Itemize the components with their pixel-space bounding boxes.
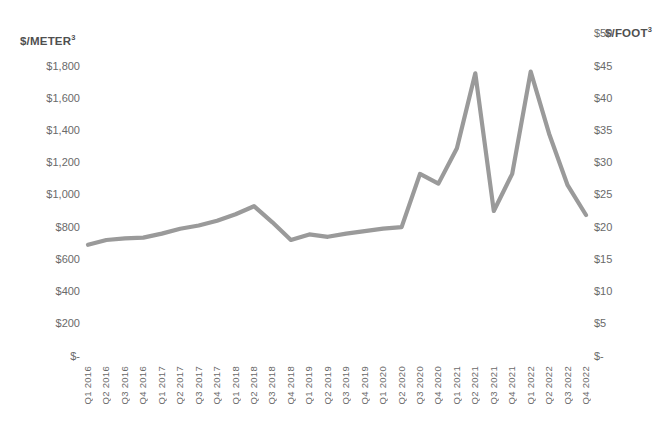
right-tick-label: $20 <box>594 222 664 233</box>
left-tick-label: $600 <box>10 254 80 265</box>
x-tick-label: Q1 2017 <box>156 366 167 405</box>
left-tick-label: $1,200 <box>10 157 80 168</box>
x-tick-label: Q3 2021 <box>488 366 499 405</box>
right-tick-label: $30 <box>594 157 664 168</box>
right-tick-label: $- <box>594 351 664 362</box>
left-axis-tick-labels: $-$200$400$600$800$1,000$1,200$1,400$1,6… <box>10 0 80 446</box>
x-tick-label: Q1 2016 <box>82 366 93 405</box>
left-tick-label: $800 <box>10 222 80 233</box>
price-series-line <box>88 72 586 245</box>
x-tick-label: Q4 2017 <box>211 366 222 405</box>
x-tick-label: Q4 2022 <box>580 366 591 405</box>
right-tick-label: $45 <box>594 61 664 72</box>
x-tick-label: Q1 2019 <box>303 366 314 405</box>
x-tick-label: Q3 2020 <box>414 366 425 405</box>
right-tick-label: $10 <box>594 286 664 297</box>
x-tick-label: Q3 2019 <box>340 366 351 405</box>
x-tick-label: Q4 2021 <box>506 366 517 405</box>
right-tick-label: $40 <box>594 93 664 104</box>
x-tick-label: Q4 2019 <box>359 366 370 405</box>
left-tick-label: $1,000 <box>10 189 80 200</box>
x-tick-label: Q2 2017 <box>174 366 185 405</box>
left-tick-label: $1,800 <box>10 61 80 72</box>
right-tick-label: $50 <box>594 28 664 39</box>
x-tick-label: Q1 2020 <box>377 366 388 405</box>
x-tick-label: Q3 2017 <box>193 366 204 405</box>
x-axis-tick-labels: Q1 2016Q2 2016Q3 2016Q4 2016Q1 2017Q2 20… <box>80 362 594 446</box>
right-tick-label: $5 <box>594 318 664 329</box>
x-tick-label: Q3 2018 <box>266 366 277 405</box>
x-tick-label: Q2 2021 <box>469 366 480 405</box>
x-tick-label: Q4 2020 <box>432 366 443 405</box>
left-tick-label: $400 <box>10 286 80 297</box>
line-chart: $/METER3 $/FOOT3 $-$200$400$600$800$1,00… <box>0 0 668 446</box>
x-tick-label: Q2 2018 <box>248 366 259 405</box>
x-tick-label: Q4 2016 <box>137 366 148 405</box>
left-tick-label: $1,600 <box>10 93 80 104</box>
x-tick-label: Q1 2021 <box>451 366 462 405</box>
x-tick-label: Q3 2016 <box>119 366 130 405</box>
right-axis-tick-labels: $-$5$10$15$20$25$30$35$40$45$50 <box>594 0 664 446</box>
left-tick-label: $200 <box>10 318 80 329</box>
x-tick-label: Q3 2022 <box>562 366 573 405</box>
x-tick-label: Q2 2020 <box>396 366 407 405</box>
right-tick-label: $15 <box>594 254 664 265</box>
x-tick-label: Q2 2022 <box>543 366 554 405</box>
left-tick-label: $- <box>10 351 80 362</box>
right-tick-label: $35 <box>594 125 664 136</box>
x-tick-label: Q1 2018 <box>230 366 241 405</box>
x-tick-label: Q2 2016 <box>100 366 111 405</box>
x-tick-label: Q1 2022 <box>525 366 536 405</box>
x-tick-label: Q2 2019 <box>322 366 333 405</box>
right-tick-label: $25 <box>594 189 664 200</box>
x-tick-label: Q4 2018 <box>285 366 296 405</box>
left-tick-label: $1,400 <box>10 125 80 136</box>
